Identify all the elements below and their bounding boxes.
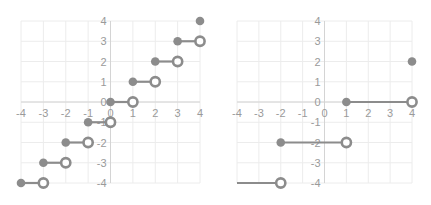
closed-endpoint-marker [17,179,26,188]
x-tick-label: 4 [409,107,415,119]
open-endpoint-marker [173,57,182,66]
chart-floor-function: -4-3-2-10123443210-1-2-3-4 [16,15,204,189]
closed-endpoint-marker [39,158,48,167]
chart-piecewise-step-function: -4-3-2-10123443210-1-2-3-4 [232,15,416,189]
x-tick-label: -1 [298,107,308,119]
y-tick-label: 3 [100,35,106,47]
closed-endpoint-marker [342,98,351,107]
y-tick-label: -3 [97,157,107,169]
y-tick-label: -4 [97,177,107,189]
y-tick-label: 1 [100,76,106,88]
isolated-point-marker [408,57,417,66]
charts-canvas: -4-3-2-10123443210-1-2-3-4 -4-3-2-101234… [0,0,431,205]
y-tick-label: -4 [311,177,321,189]
y-tick-label: 2 [314,56,320,68]
x-tick-label: 4 [197,107,203,119]
y-tick-label: 2 [100,56,106,68]
x-tick-label: 2 [152,107,158,119]
x-tick-label: 3 [387,107,393,119]
x-tick-label: 1 [130,107,136,119]
y-tick-label: -1 [311,116,321,128]
open-endpoint-marker [39,178,48,187]
y-tick-label: 1 [314,76,320,88]
closed-endpoint-marker [106,98,115,107]
open-endpoint-marker [84,138,93,147]
isolated-point-marker [196,17,205,26]
x-tick-label: -1 [83,107,93,119]
x-tick-label: -4 [232,107,242,119]
closed-endpoint-marker [151,57,160,66]
open-endpoint-marker [195,37,204,46]
x-tick-label: -2 [276,107,286,119]
x-tick-label: 2 [365,107,371,119]
open-endpoint-marker [276,178,285,187]
open-endpoint-marker [128,97,137,106]
x-tick-label: -3 [38,107,48,119]
closed-endpoint-marker [61,138,70,147]
x-tick-label: -4 [16,107,26,119]
x-tick-label: -3 [254,107,264,119]
open-endpoint-marker [407,97,416,106]
closed-endpoint-marker [276,138,285,147]
x-tick-label: 3 [175,107,181,119]
closed-endpoint-marker [129,77,138,86]
y-tick-label: 4 [100,15,106,27]
y-tick-label: 4 [314,15,320,27]
closed-endpoint-marker [173,37,182,46]
open-endpoint-marker [151,77,160,86]
x-tick-label: 0 [321,107,327,119]
y-tick-label: 3 [314,35,320,47]
open-endpoint-marker [61,158,70,167]
y-tick-label: -3 [311,157,321,169]
y-tick-label: 0 [314,96,320,108]
open-endpoint-marker [342,138,351,147]
x-tick-label: 1 [343,107,349,119]
closed-endpoint-marker [84,118,93,127]
y-tick-label: 0 [100,96,106,108]
open-endpoint-marker [106,118,115,127]
y-tick-label: -2 [97,137,107,149]
x-tick-label: -2 [61,107,71,119]
